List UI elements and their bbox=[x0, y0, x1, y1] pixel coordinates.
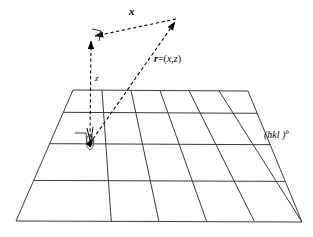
x-vector-label: x bbox=[129, 6, 135, 17]
lattice-plane bbox=[16, 90, 302, 222]
z-vector bbox=[90, 41, 91, 143]
z-vector-label: z bbox=[95, 74, 99, 83]
diagram-svg bbox=[0, 0, 313, 237]
r-vector-equals: =( bbox=[158, 53, 167, 64]
plane-outline bbox=[16, 90, 302, 222]
right-angle-at-origin bbox=[75, 133, 87, 144]
r-vector-label: r=(x,z) bbox=[154, 54, 181, 64]
r-vector-close-paren: ) bbox=[178, 53, 181, 64]
plane-label-text: (hkl ) bbox=[264, 129, 285, 140]
figure-canvas: x z r=(x,z) (hkl )b bbox=[0, 0, 313, 237]
r-vector bbox=[93, 22, 175, 139]
x-vector bbox=[95, 19, 176, 36]
plane-label-superscript: b bbox=[285, 128, 289, 136]
plane-column-lines bbox=[102, 90, 302, 222]
plane-row-lines bbox=[34, 112, 286, 181]
plane-label: (hkl )b bbox=[264, 129, 289, 140]
